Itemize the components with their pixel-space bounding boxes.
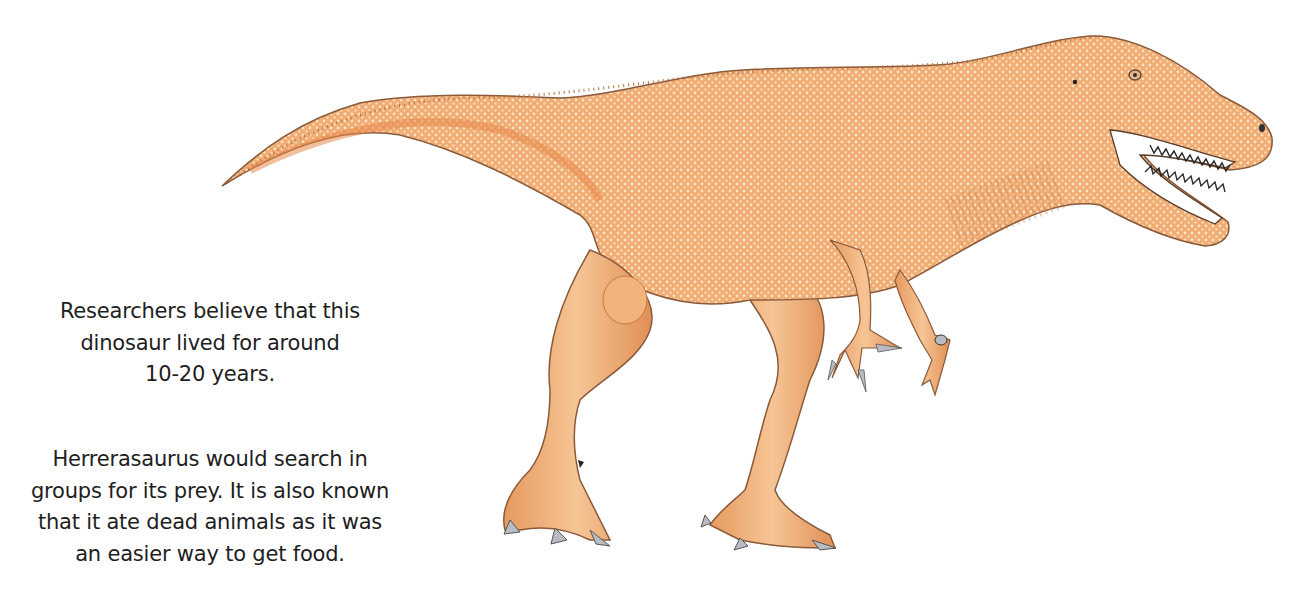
dinosaur-body [222,36,1272,304]
lifespan-paragraph: Researchers believe that this dinosaur l… [0,296,420,391]
behavior-paragraph: Herrerasaurus would search in groups for… [0,444,420,570]
text-line: Herrerasaurus would search in [0,444,420,476]
text-line: dinosaur lived for around [0,328,420,360]
far-leg [701,280,836,550]
text-line: Researchers believe that this [0,296,420,328]
near-leg [504,250,652,546]
text-line: an easier way to get food. [0,539,420,571]
text-line: groups for its prey. It is also known [0,476,420,508]
text-line: 10-20 years. [0,359,420,391]
text-line: that it ate dead animals as it was [0,507,420,539]
page: Researchers believe that this dinosaur l… [0,0,1304,610]
